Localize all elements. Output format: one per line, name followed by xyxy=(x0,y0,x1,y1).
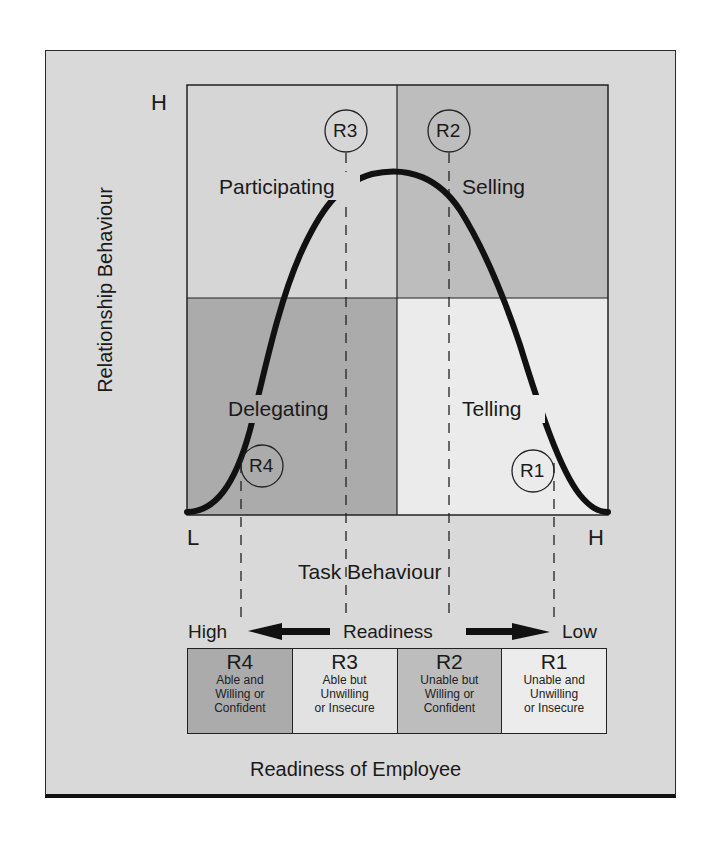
readiness-desc-line: Able and xyxy=(188,673,292,687)
y-axis-high: H xyxy=(151,90,167,116)
readiness-desc-line: Confident xyxy=(188,701,292,715)
readiness-table: R4 Able and Willing or Confident R3 Able… xyxy=(187,648,607,734)
readiness-code: R3 xyxy=(293,651,397,673)
readiness-desc-line: Unwilling xyxy=(502,687,606,701)
quadrant-label-selling: Selling xyxy=(462,175,525,199)
readiness-desc-line: Able but xyxy=(293,673,397,687)
readiness-code: R4 xyxy=(188,651,292,673)
readiness-cell-r1: R1 Unable and Unwilling or Insecure xyxy=(502,649,606,733)
quadrant-label-telling: Telling xyxy=(462,397,522,421)
readiness-title: Readiness xyxy=(343,621,433,643)
footer-title: Readiness of Employee xyxy=(250,758,461,781)
readiness-desc-line: Unwilling xyxy=(293,687,397,701)
readiness-desc-line: Willing or xyxy=(188,687,292,701)
readiness-high: High xyxy=(188,621,227,643)
readiness-cell-r3: R3 Able but Unwilling or Insecure xyxy=(293,649,398,733)
readiness-code: R1 xyxy=(502,651,606,673)
arrow-left-icon xyxy=(248,623,330,640)
readiness-desc-line: Willing or xyxy=(398,687,502,701)
y-axis-label: Relationship Behaviour xyxy=(94,187,117,393)
readiness-desc-line: Confident xyxy=(398,701,502,715)
readiness-code: R2 xyxy=(398,651,502,673)
x-axis-label: Task Behaviour xyxy=(298,560,442,584)
readiness-desc-line: or Insecure xyxy=(293,701,397,715)
readiness-desc-line: Unable but xyxy=(398,673,502,687)
readiness-desc-line: Unable and xyxy=(502,673,606,687)
readiness-cell-r4: R4 Able and Willing or Confident xyxy=(188,649,293,733)
quadrant-label-participating: Participating xyxy=(219,175,335,199)
marker-r3: R3 xyxy=(333,120,357,142)
readiness-low: Low xyxy=(562,621,597,643)
quadrant-label-delegating: Delegating xyxy=(228,397,328,421)
readiness-desc-line: or Insecure xyxy=(502,701,606,715)
readiness-cell-r2: R2 Unable but Willing or Confident xyxy=(398,649,503,733)
x-axis-low: L xyxy=(187,525,199,551)
x-axis-high: H xyxy=(588,525,604,551)
marker-r2: R2 xyxy=(436,120,460,142)
marker-r1: R1 xyxy=(520,460,544,482)
arrow-right-icon xyxy=(466,623,550,640)
marker-r4: R4 xyxy=(249,455,273,477)
